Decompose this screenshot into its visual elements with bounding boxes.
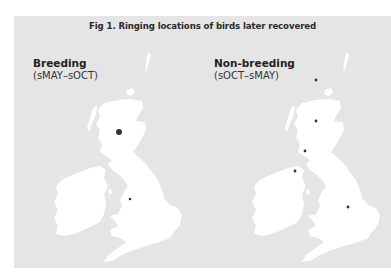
maps-svg bbox=[0, 0, 391, 278]
ringing-location-dot bbox=[315, 79, 318, 82]
non-breeding-map bbox=[252, 52, 380, 262]
breeding-period: (sMAY–sOCT) bbox=[33, 70, 98, 81]
breeding-heading: Breeding bbox=[33, 57, 87, 69]
ringing-location-dot bbox=[116, 129, 122, 135]
breeding-map bbox=[54, 52, 182, 262]
ringing-location-dot bbox=[129, 198, 132, 201]
ringing-location-dot bbox=[347, 206, 350, 209]
ringing-location-dot bbox=[315, 120, 318, 123]
ringing-location-dot bbox=[304, 150, 307, 153]
non-breeding-heading: Non-breeding bbox=[214, 57, 295, 69]
non-breeding-period: (sOCT–sMAY) bbox=[214, 70, 279, 81]
ringing-location-dot bbox=[294, 170, 297, 173]
